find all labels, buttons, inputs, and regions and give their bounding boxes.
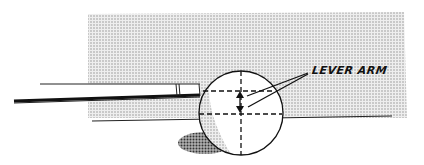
diagram-canvas: [0, 0, 424, 165]
lever-arm-label: LEVER ARM: [311, 64, 388, 77]
lever-arm-diagram: LEVER ARM: [0, 0, 424, 165]
